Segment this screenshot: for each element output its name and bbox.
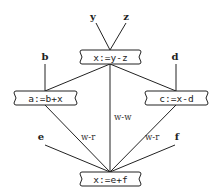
node-label: c:=x-d bbox=[159, 93, 193, 104]
edge-n1-to-n2 bbox=[45, 64, 110, 91]
edge-label-w-w: w-w bbox=[114, 112, 132, 122]
edge-n1-to-n3 bbox=[110, 64, 176, 91]
edge-f-to-n4 bbox=[110, 145, 175, 172]
node-label: x:=e+f bbox=[93, 174, 127, 185]
edge-label-w-r-left: w-r bbox=[81, 132, 96, 142]
var-d: d bbox=[172, 51, 179, 62]
dependency-labels: w-r w-w w-r bbox=[81, 112, 160, 142]
node-label: x:=y-z bbox=[93, 52, 127, 63]
var-e: e bbox=[38, 131, 44, 142]
edge-z-to-n1 bbox=[110, 23, 126, 50]
node-c-eq-x-minus-d: c:=x-d bbox=[145, 91, 208, 105]
node-x-eq-e-plus-f: x:=e+f bbox=[80, 172, 141, 186]
edge-n2-to-n4 bbox=[45, 105, 110, 172]
dependency-diagram: x:=y-z a:=b+x c:=x-d x:=e+f y z b d e f … bbox=[0, 0, 220, 195]
node-label: a:=b+x bbox=[28, 93, 63, 104]
var-f: f bbox=[175, 131, 180, 142]
edge-label-w-r-right: w-r bbox=[145, 132, 160, 142]
node-a-eq-b-plus-x: a:=b+x bbox=[14, 91, 77, 105]
var-y: y bbox=[89, 11, 97, 22]
node-x-eq-y-minus-z: x:=y-z bbox=[80, 50, 141, 64]
var-b: b bbox=[42, 51, 49, 62]
edge-e-to-n4 bbox=[45, 145, 110, 172]
edge-y-to-n1 bbox=[96, 23, 110, 50]
var-z: z bbox=[123, 11, 129, 22]
